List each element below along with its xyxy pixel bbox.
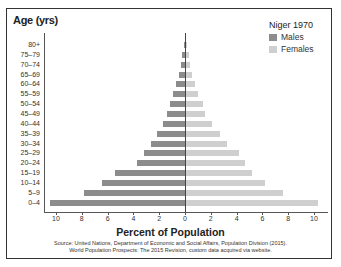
legend-item-females: Females	[269, 44, 314, 54]
age-label: 25–29	[4, 149, 40, 157]
female-bar	[186, 170, 252, 176]
male-bar	[181, 62, 185, 68]
male-bar	[137, 160, 185, 166]
age-label: 20–24	[4, 159, 40, 167]
legend-title: Niger 1970	[269, 20, 314, 30]
males-swatch-icon	[269, 34, 277, 41]
age-label: 75–79	[4, 51, 40, 59]
male-bar	[151, 141, 185, 147]
age-label: 35–39	[4, 130, 40, 138]
female-bar	[186, 160, 245, 166]
age-label: 0–4	[4, 199, 40, 207]
x-tick-label: 2	[203, 215, 219, 222]
x-axis-title: Percent of Population	[0, 226, 341, 238]
female-bar	[186, 190, 283, 196]
female-bar	[186, 131, 220, 137]
age-label: 5–9	[4, 189, 40, 197]
x-tick-label: 2	[151, 215, 167, 222]
age-label: 80+	[4, 41, 40, 49]
male-bar	[84, 190, 185, 196]
age-label: 45–49	[4, 110, 40, 118]
source-line-1: Source: United Nations, Department of Ec…	[0, 240, 341, 247]
male-bar	[102, 180, 185, 186]
x-tick-label: 6	[100, 215, 116, 222]
male-bar	[163, 121, 185, 127]
male-bar	[184, 42, 185, 48]
age-label: 70–74	[4, 61, 40, 69]
female-bar	[186, 141, 227, 147]
female-bar	[186, 200, 318, 206]
male-bar	[170, 101, 185, 107]
legend-label-males: Males	[281, 32, 304, 42]
male-bar	[173, 91, 185, 97]
female-bar	[186, 62, 190, 68]
female-bar	[186, 101, 203, 107]
x-tick-label: 10	[306, 215, 322, 222]
male-bar	[50, 200, 185, 206]
female-bar	[186, 91, 198, 97]
legend-label-females: Females	[281, 44, 314, 54]
female-bar	[186, 52, 189, 58]
age-label: 60–64	[4, 80, 40, 88]
x-tick-label: 10	[48, 215, 64, 222]
age-label: 10–14	[4, 179, 40, 187]
female-bar	[186, 111, 205, 117]
x-tick-label: 4	[229, 215, 245, 222]
source-line-2: World Population Prospects: The 2015 Rev…	[0, 247, 341, 254]
female-bar	[186, 121, 212, 127]
male-bar	[182, 52, 185, 58]
x-tick-label: 4	[125, 215, 141, 222]
females-swatch-icon	[269, 46, 277, 53]
legend: Niger 1970 Males Females	[269, 20, 314, 54]
legend-item-males: Males	[269, 32, 314, 42]
age-label: 40–44	[4, 120, 40, 128]
female-bar	[186, 72, 192, 78]
female-bar	[186, 180, 265, 186]
age-label: 15–19	[4, 169, 40, 177]
y-axis-line	[44, 33, 45, 213]
male-bar	[144, 150, 185, 156]
male-bar	[115, 170, 185, 176]
male-bar	[157, 131, 185, 137]
age-label: 30–34	[4, 140, 40, 148]
female-bar	[186, 42, 187, 48]
x-tick-label: 8	[280, 215, 296, 222]
x-tick-label: 8	[74, 215, 90, 222]
x-tick-label: 6	[254, 215, 270, 222]
age-label: 50–54	[4, 100, 40, 108]
age-label: 55–59	[4, 90, 40, 98]
female-bar	[186, 81, 195, 87]
male-bar	[176, 81, 185, 87]
female-bar	[186, 150, 239, 156]
male-bar	[179, 72, 185, 78]
y-axis-title: Age (yrs)	[13, 14, 58, 26]
male-bar	[167, 111, 185, 117]
age-label: 65–69	[4, 71, 40, 79]
x-tick-label: 0	[177, 215, 193, 222]
